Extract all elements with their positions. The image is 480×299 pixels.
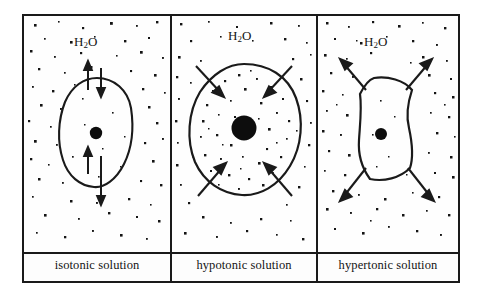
panel-label-hypotonic: hypotonic solution	[196, 258, 291, 273]
panel-hypertonic: H2O	[318, 16, 458, 252]
panel-hypotonic: H2O	[172, 16, 316, 252]
water-label-hypertonic: H2O	[364, 34, 387, 50]
osmosis-figure: H2O	[22, 14, 460, 283]
nucleus-hypotonic	[232, 116, 257, 141]
solute-dots-hypertonic	[322, 21, 456, 236]
panel-isotonic-graphic	[24, 16, 170, 252]
nucleus-isotonic	[90, 127, 102, 139]
panel-hypotonic-graphic	[172, 16, 316, 252]
label-cell-hypotonic: hypotonic solution	[172, 250, 316, 281]
diagram-canvas: H2O	[0, 0, 480, 299]
label-cell-hypertonic: hypertonic solution	[318, 250, 458, 281]
label-cell-isotonic: isotonic solution	[24, 250, 170, 281]
label-row: isotonic solution hypotonic solution hyp…	[24, 250, 458, 281]
panel-label-isotonic: isotonic solution	[55, 258, 140, 273]
panel-isotonic: H2O	[24, 16, 170, 252]
nucleus-hypertonic	[375, 128, 387, 140]
cell-membrane-hypertonic	[359, 78, 412, 180]
panel-hypertonic-graphic	[318, 16, 458, 252]
panel-label-hypertonic: hypertonic solution	[339, 258, 438, 273]
water-label-hypotonic: H2O	[228, 28, 251, 44]
water-label-isotonic: H2O	[74, 34, 97, 50]
